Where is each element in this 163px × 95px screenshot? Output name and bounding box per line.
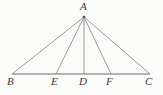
segment-AF <box>84 17 111 74</box>
segment-AB <box>12 17 84 74</box>
vertex-label-C: C <box>145 76 152 87</box>
segment-AE <box>56 17 84 74</box>
vertex-point-A <box>83 16 86 19</box>
geometry-figure: A B E D F C <box>0 0 163 95</box>
vertex-label-B: B <box>7 76 14 87</box>
vertex-label-D: D <box>79 76 87 87</box>
segment-AC <box>84 17 150 74</box>
vertex-label-E: E <box>51 76 58 87</box>
vertex-label-F: F <box>106 76 113 87</box>
vertex-label-A: A <box>80 1 87 12</box>
